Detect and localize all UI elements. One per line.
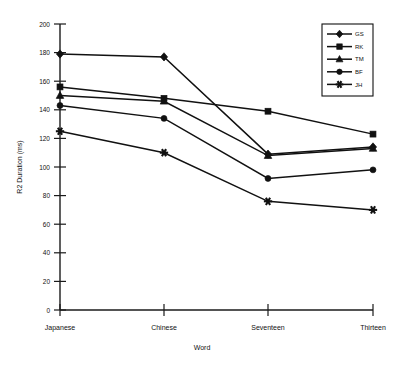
x-axis-tick-labels: Japanese Chinese Seventeen Thirteen xyxy=(45,324,386,332)
legend-marker-square-icon xyxy=(337,44,342,49)
y-tick-label: 100 xyxy=(39,164,50,171)
y-tick-label: 120 xyxy=(39,135,50,142)
y-tick-label: 80 xyxy=(43,192,51,199)
data-point xyxy=(161,115,167,121)
y-tick-label: 60 xyxy=(43,221,51,228)
y-tick-label: 160 xyxy=(39,78,50,85)
data-point xyxy=(57,103,63,109)
y-tick-label: 180 xyxy=(39,49,50,56)
x-axis-title: Word xyxy=(194,344,211,351)
x-tick-label: Seventeen xyxy=(251,324,285,331)
data-point xyxy=(264,198,272,205)
series-BF xyxy=(57,103,376,182)
legend-label: RK xyxy=(355,44,363,50)
legend-label: GS xyxy=(355,31,364,37)
data-point xyxy=(370,131,376,137)
x-tick-label: Japanese xyxy=(45,324,75,332)
data-point xyxy=(56,50,63,58)
x-tick-label: Chinese xyxy=(151,324,177,331)
y-tick-label: 200 xyxy=(39,21,50,28)
y-tick-label: 0 xyxy=(46,307,50,314)
legend-label: TM xyxy=(355,56,364,62)
series-line xyxy=(60,131,373,210)
legend-label: JH xyxy=(355,82,362,88)
data-point xyxy=(370,167,376,173)
data-point xyxy=(160,149,168,156)
y-tick-label: 20 xyxy=(43,278,51,285)
line-chart: 200 180 160 140 120 100 80 60 40 20 0 Ja… xyxy=(0,0,405,365)
series-JH xyxy=(56,128,377,214)
y-tick-label: 140 xyxy=(39,106,50,113)
data-point xyxy=(57,84,63,90)
data-point xyxy=(369,206,377,213)
series-line xyxy=(60,106,373,179)
legend-marker-circle-icon xyxy=(337,69,342,74)
data-point xyxy=(265,175,271,181)
x-tick-label: Thirteen xyxy=(360,324,386,331)
y-tick-label: 40 xyxy=(43,249,51,256)
legend-box xyxy=(322,24,373,96)
y-axis-title: R2 Duration (ms) xyxy=(16,140,24,193)
y-axis-tick-labels: 200 180 160 140 120 100 80 60 40 20 0 xyxy=(39,21,50,314)
legend-label: BF xyxy=(355,69,363,75)
chart-figure: 200 180 160 140 120 100 80 60 40 20 0 Ja… xyxy=(0,0,405,365)
data-point xyxy=(265,108,271,114)
